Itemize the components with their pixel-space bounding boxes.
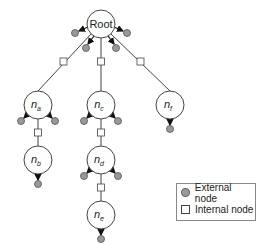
legend-internal: Internal node bbox=[177, 201, 255, 218]
legend: External node Internal node bbox=[176, 183, 256, 221]
root-label: Root bbox=[89, 18, 112, 30]
internal-node-icon bbox=[181, 205, 190, 214]
legend-external-label: External node bbox=[195, 182, 255, 204]
legend-internal-label: Internal node bbox=[195, 204, 253, 215]
external-node-icon bbox=[181, 188, 190, 197]
legend-external: External node bbox=[177, 184, 255, 201]
